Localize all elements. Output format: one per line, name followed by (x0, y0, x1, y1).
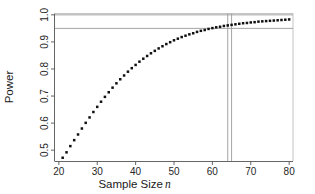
data-point (154, 50, 157, 53)
x-axis-title: Sample Size (98, 178, 163, 190)
data-point (276, 19, 279, 22)
data-point (131, 67, 134, 70)
data-point (119, 78, 122, 81)
data-point (161, 45, 164, 48)
data-point (150, 52, 153, 55)
data-point (84, 122, 87, 125)
y-tick-label: 0.7 (39, 89, 50, 103)
x-tick-label: 80 (284, 166, 296, 177)
x-tick-label: 50 (168, 166, 180, 177)
data-point (234, 23, 237, 26)
power-curve-chart: 0.50.60.70.80.91.0 20304050607080 Power … (0, 0, 315, 194)
data-point (69, 145, 72, 148)
data-point (180, 36, 183, 39)
data-point (288, 18, 291, 21)
data-point (273, 19, 276, 22)
y-tick-label: 0.9 (39, 35, 50, 49)
x-tick-label: 30 (92, 166, 104, 177)
data-point (77, 133, 80, 136)
data-point (96, 106, 99, 109)
data-point (211, 27, 214, 30)
x-tick-label: 40 (130, 166, 142, 177)
y-tick-label: 0.8 (39, 62, 50, 76)
data-point (100, 100, 103, 103)
data-point (134, 64, 137, 67)
data-point (265, 20, 268, 23)
data-point (269, 20, 272, 23)
data-point (165, 43, 168, 46)
data-point (223, 25, 226, 28)
data-point (238, 23, 241, 26)
data-point (257, 20, 260, 23)
data-point (250, 21, 253, 24)
data-point (61, 157, 64, 160)
data-point (280, 19, 283, 22)
y-tick-label: 0.6 (39, 116, 50, 130)
x-axis-title-variable: n (165, 178, 171, 190)
data-point (104, 96, 107, 99)
y-axis-title: Power (3, 71, 15, 104)
data-point (253, 21, 256, 24)
data-point (188, 33, 191, 36)
data-point (88, 116, 91, 119)
data-point (123, 74, 126, 77)
data-point (138, 60, 141, 63)
x-tick-label: 20 (53, 166, 65, 177)
data-point (115, 82, 118, 85)
data-point (246, 22, 249, 25)
data-point (73, 139, 76, 142)
y-tick-label: 0.5 (39, 143, 50, 157)
data-point (215, 26, 218, 29)
x-tick-label: 70 (245, 166, 257, 177)
x-tick-label: 60 (207, 166, 219, 177)
data-point (173, 39, 176, 42)
data-point (92, 111, 95, 114)
data-point (184, 34, 187, 37)
data-point (196, 31, 199, 34)
data-point (169, 41, 172, 44)
data-point (242, 22, 245, 25)
data-point (230, 24, 233, 27)
data-point (219, 26, 222, 29)
data-point (203, 29, 206, 32)
data-point (65, 151, 68, 154)
data-point (200, 30, 203, 33)
y-tick-label: 1.0 (39, 7, 50, 21)
data-point (284, 18, 287, 21)
data-point (142, 57, 145, 60)
data-point (127, 70, 130, 73)
data-point (207, 28, 210, 31)
data-point (111, 86, 114, 89)
data-point (192, 32, 195, 35)
data-point (107, 91, 110, 94)
data-point (157, 47, 160, 50)
data-point (261, 20, 264, 23)
data-point (81, 127, 84, 129)
data-point (226, 24, 229, 27)
data-point (146, 55, 149, 58)
data-point (177, 37, 180, 40)
